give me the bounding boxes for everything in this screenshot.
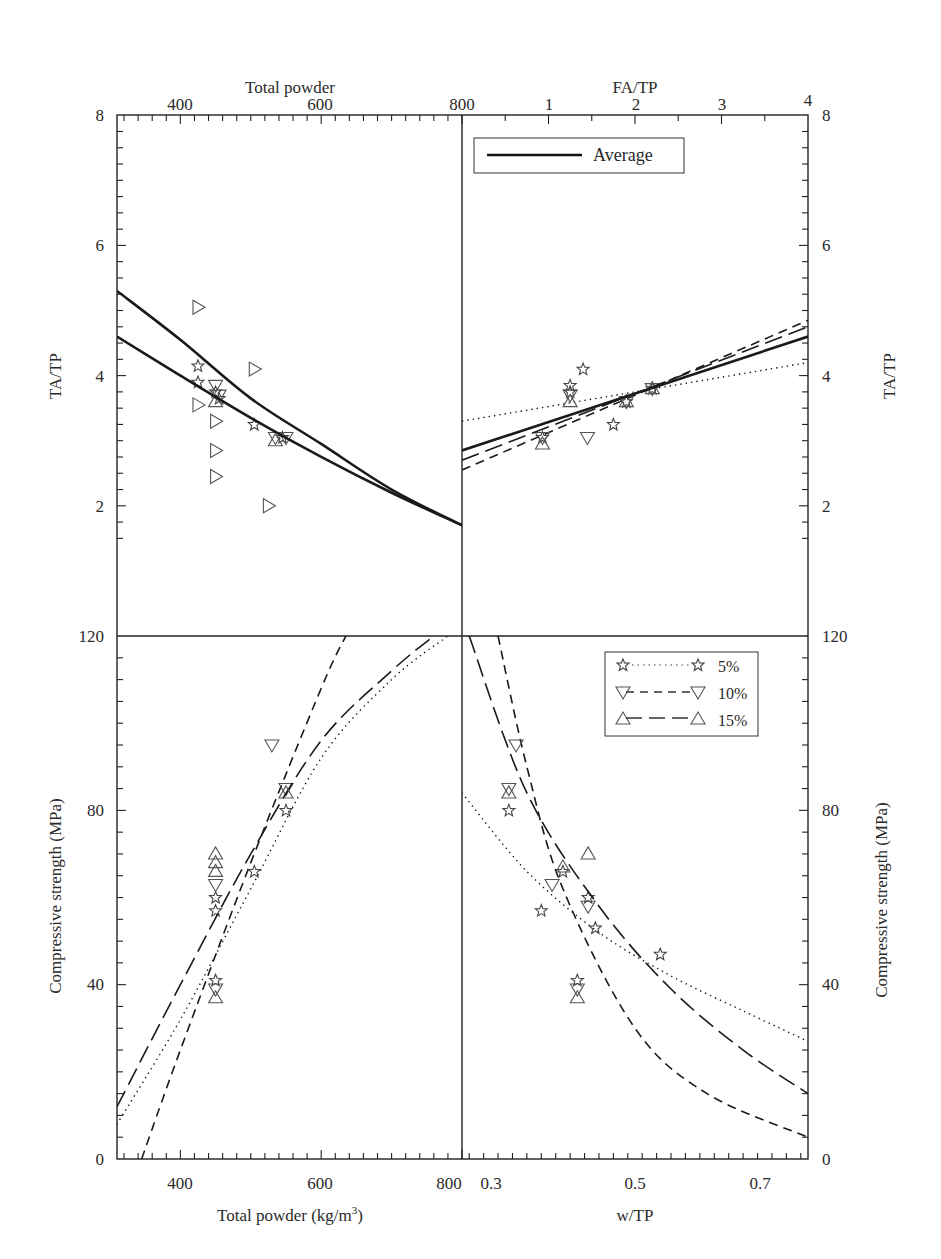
bottom-x-tick-800: 800 [436,1174,462,1193]
y-tick-0-left: 0 [96,1150,105,1169]
y-tick-0-right: 0 [822,1150,831,1169]
top-left-x-axis: Total powder 400 600 800 [167,78,475,114]
series-legend: 5% 10% 15% [605,652,758,736]
legend-15: 15% [718,712,747,729]
top-left-x-tick-600: 600 [307,95,333,114]
top-right-x-tick-4: 4 [804,91,813,110]
chart-figure: Total powder 400 600 800 FA/TP 1 2 3 4 8… [0,0,941,1259]
top-left-y-axis: 8 6 4 2 TA/TP [46,106,105,516]
average-legend: Average [474,138,684,173]
y-tick-40-left: 40 [87,975,104,994]
y-tick-6-right: 6 [822,236,831,255]
bottom-left-y-title: Compressive strength (MPa) [46,798,65,993]
top-right-x-axis: FA/TP 1 2 3 4 [545,78,813,114]
bottom-x-tick-0.7: 0.7 [749,1174,771,1193]
bottom-right-y-axis: 120 80 40 0 Compressive strength (MPa) [822,627,891,1169]
y-tick-2-right: 2 [822,497,831,516]
bottom-left-y-axis: 120 80 40 0 Compressive strength (MPa) [46,627,104,1169]
y-tick-120-left: 120 [79,627,105,646]
legend-5: 5% [718,658,739,675]
bottom-x-tick-400: 400 [167,1174,193,1193]
y-tick-6-left: 6 [96,236,105,255]
panel-0 [117,291,462,525]
bottom-right-x-title: w/TP [617,1206,654,1225]
bottom-right-y-title: Compressive strength (MPa) [872,802,891,997]
y-tick-8-right: 8 [822,106,831,125]
top-right-x-tick-2: 2 [632,95,641,114]
y-tick-120-right: 120 [822,627,848,646]
top-right-y-title: TA/TP [880,353,899,399]
panel-2 [117,636,448,1159]
y-tick-4-right: 4 [822,367,831,386]
panel-1 [462,320,808,470]
bottom-right-x-axis: 0.3 0.5 0.7 w/TP [480,1174,771,1225]
y-tick-80-right: 80 [822,801,839,820]
y-tick-8-left: 8 [96,106,105,125]
bottom-left-x-axis: 400 600 800 Total powder (kg/m3) [167,1174,462,1225]
top-left-x-tick-400: 400 [167,95,193,114]
top-right-x-tick-1: 1 [545,95,554,114]
bottom-x-tick-600: 600 [307,1174,333,1193]
bottom-left-x-title: Total powder (kg/m3) [217,1204,363,1225]
bottom-x-tick-0.5: 0.5 [624,1174,645,1193]
top-left-y-title: TA/TP [46,353,65,399]
y-tick-80-left: 80 [87,801,104,820]
x-title-main: Total powder (kg/m [217,1206,352,1225]
y-tick-40-right: 40 [822,975,839,994]
average-legend-label: Average [593,145,653,165]
top-right-x-tick-3: 3 [718,95,727,114]
top-right-y-axis: 8 6 4 2 TA/TP [822,106,899,516]
y-tick-4-left: 4 [96,367,105,386]
x-title-end: ) [357,1206,363,1225]
top-left-x-tick-800: 800 [449,95,475,114]
bottom-x-tick-0.3: 0.3 [480,1174,501,1193]
y-tick-2-left: 2 [96,497,105,516]
legend-10: 10% [718,685,747,702]
